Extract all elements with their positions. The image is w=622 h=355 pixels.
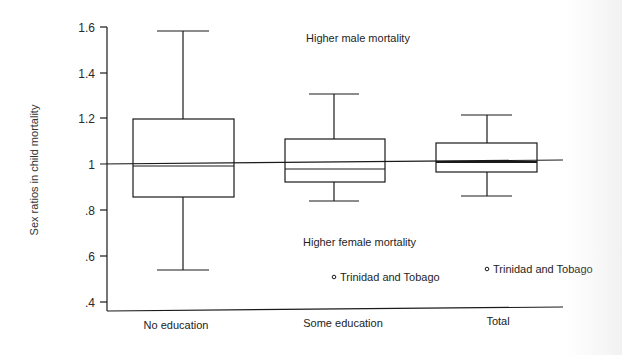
y-axis-label: Sex ratios in child mortality [28,104,40,235]
outlier-marker [332,275,336,279]
outlier-marker [485,267,489,271]
annotation-higher-male-mortality: Higher male mortality [306,32,410,44]
x-axis [107,307,563,311]
x-category-some-education: Some education [303,317,383,329]
outlier-some-education: Trinidad and Tobago [332,271,439,283]
y-tick-0-6: .6 [85,250,95,264]
y-tick-1: 1 [88,158,95,172]
box-no-education [133,31,234,270]
outlier-label: Trinidad and Tobago [493,263,593,275]
annotation-higher-female-mortality: Higher female mortality [303,236,417,248]
y-tick-0-8: .8 [85,204,95,218]
outlier-label: Trinidad and Tobago [340,271,440,283]
y-tick-0-4: .4 [85,296,95,310]
y-tick-1-2: 1.2 [78,112,95,126]
box-some-education [285,94,385,201]
box-total [436,115,537,196]
y-tick-labels: 1.6 1.4 1.2 1 .8 .6 .4 [78,21,95,310]
x-category-no-education: No education [144,319,209,331]
y-tick-1-6: 1.6 [78,21,95,35]
x-category-total: Total [486,315,509,327]
boxplot-chart: Sex ratios in child mortality 1.6 1.4 1.… [0,0,622,355]
y-axis [100,27,107,311]
y-tick-1-4: 1.4 [78,67,95,81]
outlier-total: Trinidad and Tobago [485,263,592,275]
